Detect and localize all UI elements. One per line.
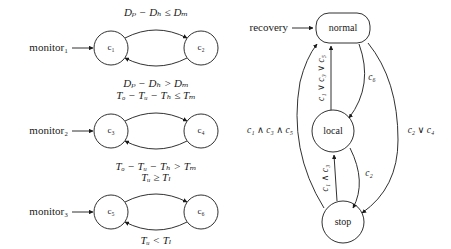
- monitor-3-group: monitor₃ c₅ c₆ Tᵤ ≥ Tₗ Tᵤ < Tₗ: [29, 171, 218, 246]
- monitor-2-state-c3-label: c₃: [107, 125, 114, 135]
- monitor-3-state-c5-label: c₅: [107, 206, 114, 216]
- monitor-3-backward-edge[interactable]: [125, 222, 187, 230]
- transition-normal-to-stop-label: c₂ ∨ c₄: [408, 125, 435, 135]
- transition-normal-to-local-edge[interactable]: [349, 44, 365, 118]
- transition-normal-to-stop-edge[interactable]: [362, 43, 398, 213]
- state-normal-label: normal: [329, 22, 358, 33]
- monitor-2-forward-condition: Tₒ − Tᵤ − Tₕ ≤ Tₘ: [116, 89, 196, 101]
- monitor-2-backward-edge[interactable]: [125, 141, 187, 149]
- transition-stop-to-normal-label: c₁ ∧ c₃ ∧ c₅: [247, 125, 293, 135]
- monitor-3-state-c6-label: c₆: [197, 206, 204, 216]
- monitor-3-forward-condition: Tᵤ ≥ Tₗ: [141, 171, 171, 183]
- figure-canvas: monitor₁ c₁ c₂ Dₚ − Dₕ ≤ Dₘ Dₚ − Dₕ > Dₘ…: [0, 0, 451, 249]
- transition-local-to-stop-label: c₂: [365, 168, 373, 178]
- monitor-1-backward-edge[interactable]: [125, 58, 187, 66]
- monitor-3-forward-edge[interactable]: [125, 194, 187, 202]
- transition-normal-to-local-label: c₆: [368, 72, 376, 82]
- monitor-1-group: monitor₁ c₁ c₂ Dₚ − Dₕ ≤ Dₘ Dₚ − Dₕ > Dₘ: [29, 6, 218, 89]
- monitor-1-state-c2-label: c₂: [197, 42, 204, 52]
- global-state-machine-group: recovery normal local stop c₁ ∨ c₃ ∨ c₅ …: [247, 13, 434, 243]
- monitor-1-backward-condition: Dₚ − Dₕ > Dₘ: [122, 77, 189, 89]
- monitor-2-forward-edge[interactable]: [125, 113, 187, 121]
- transition-stop-to-local-edge[interactable]: [334, 155, 337, 201]
- monitor-1-forward-edge[interactable]: [125, 30, 187, 38]
- transition-local-to-normal-label: c₁ ∨ c₃ ∨ c₅: [316, 55, 326, 101]
- monitor-2-group: monitor₂ c₃ c₄ Tₒ − Tᵤ − Tₕ ≤ Tₘ Tₒ − Tᵤ…: [29, 89, 218, 172]
- monitor-1-state-c1-label: c₁: [107, 42, 114, 52]
- state-stop-label: stop: [335, 216, 352, 227]
- monitor-2-source-label: monitor₂: [29, 124, 68, 136]
- monitor-1-forward-condition: Dₚ − Dₕ ≤ Dₘ: [123, 6, 188, 18]
- state-local-label: local: [323, 125, 343, 136]
- monitor-3-source-label: monitor₃: [29, 205, 68, 217]
- monitor-1-source-label: monitor₁: [29, 41, 68, 53]
- monitor-3-backward-condition: Tᵤ < Tₗ: [140, 234, 171, 246]
- recovery-entry-label: recovery: [250, 21, 289, 33]
- state-machine-diagram: monitor₁ c₁ c₂ Dₚ − Dₕ ≤ Dₘ Dₚ − Dₕ > Dₘ…: [0, 0, 451, 249]
- transition-local-to-stop-edge[interactable]: [350, 148, 359, 208]
- monitor-2-state-c4-label: c₄: [197, 125, 204, 135]
- transition-stop-to-local-label: c₁ ∧ c₃: [320, 165, 330, 192]
